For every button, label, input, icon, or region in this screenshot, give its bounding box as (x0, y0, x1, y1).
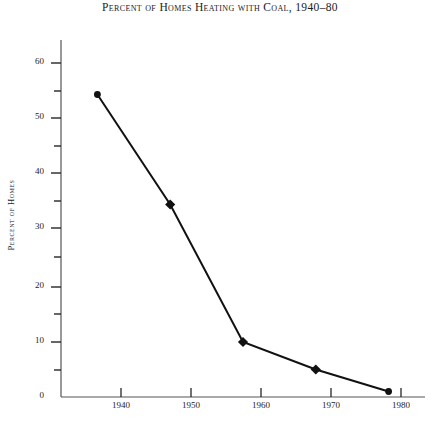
y-tick-label-30: 30 (4, 221, 44, 231)
y-tick-label-0: 0 (4, 390, 44, 400)
x-tick-label-1960: 1960 (239, 400, 283, 410)
data-point-1970 (311, 364, 321, 374)
y-tick-label-20: 20 (4, 280, 44, 290)
y-tick-label-60: 60 (4, 56, 44, 66)
y-tick-label-10: 10 (4, 335, 44, 345)
data-point-1940 (94, 91, 101, 98)
plot-area (0, 0, 440, 423)
y-tick-label-50: 50 (4, 111, 44, 121)
data-point-1980 (385, 388, 392, 395)
x-tick-label-1950: 1950 (169, 400, 213, 410)
data-point-markers (94, 91, 392, 395)
x-tick-label-1970: 1970 (309, 400, 353, 410)
data-point-1960 (238, 337, 248, 347)
data-point-1950 (165, 199, 175, 209)
x-tick-label-1980: 1980 (379, 400, 423, 410)
y-tick-label-40: 40 (4, 166, 44, 176)
y-major-ticks (51, 63, 61, 342)
x-axis-ticks (121, 388, 401, 397)
y-minor-ticks (54, 91, 61, 370)
coal-heating-line-chart: Percent of Homes Heating with Coal, 1940… (0, 0, 440, 423)
x-tick-label-1940: 1940 (99, 400, 143, 410)
